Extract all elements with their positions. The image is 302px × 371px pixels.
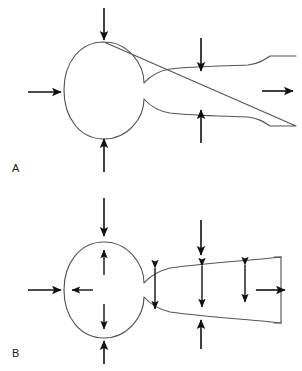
figure-background	[0, 0, 302, 371]
force-diagram-figure: A B	[0, 0, 302, 371]
panel-label-b: B	[12, 347, 19, 359]
panel-label-a: A	[12, 162, 20, 174]
